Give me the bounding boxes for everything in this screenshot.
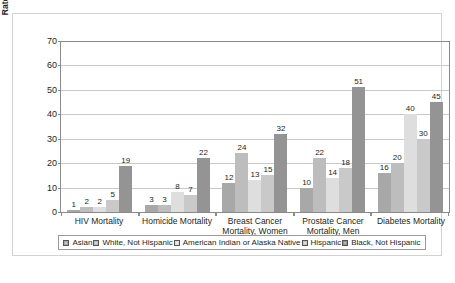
y-axis-tick-label: 0 <box>52 207 57 217</box>
bar-slot: 2 <box>93 41 106 212</box>
bar-value-label: 5 <box>111 190 115 199</box>
bar-value-label: 24 <box>238 143 247 152</box>
x-axis-category-line: Diabetes Mortality <box>372 217 450 227</box>
bar-slot: 20 <box>391 41 404 212</box>
legend-item[interactable]: American Indian or Alaska Native <box>174 238 301 247</box>
legend-label: American Indian or Alaska Native <box>183 238 301 247</box>
bar-value-label: 7 <box>188 185 192 194</box>
bar[interactable] <box>145 205 158 212</box>
bar[interactable] <box>158 205 171 212</box>
bar-slot: 18 <box>339 41 352 212</box>
bar[interactable] <box>235 153 248 212</box>
bar[interactable] <box>171 192 184 212</box>
bar[interactable] <box>430 102 443 212</box>
x-axis-tick-mark <box>139 212 140 216</box>
bar-slot: 40 <box>404 41 417 212</box>
bar-slot: 15 <box>261 41 274 212</box>
bar-slot: 3 <box>158 41 171 212</box>
x-axis-category-label: HIV Mortality <box>60 217 138 236</box>
y-axis-tick-label: 50 <box>47 85 57 95</box>
bar[interactable] <box>222 183 235 212</box>
bar-value-label: 22 <box>199 148 208 157</box>
bar-slot: 3 <box>145 41 158 212</box>
bar[interactable] <box>339 168 352 212</box>
bar[interactable] <box>80 207 93 212</box>
bar[interactable] <box>119 166 132 212</box>
y-axis-title: Rate Per 100,000 Population <box>0 0 10 32</box>
x-axis-category-label: Prostate CancerMortality, Men <box>294 217 372 236</box>
bar-slot: 10 <box>300 41 313 212</box>
bar-slot: 8 <box>171 41 184 212</box>
bar[interactable] <box>93 207 106 212</box>
x-axis-category-label: Homicide Mortality <box>138 217 216 236</box>
bar[interactable] <box>417 139 430 212</box>
bar-group: 338722 <box>139 41 217 212</box>
bar-value-label: 32 <box>277 124 286 133</box>
bar-group: 122519 <box>61 41 139 212</box>
legend-label: Asian <box>72 238 92 247</box>
legend-label: Hispanic <box>311 238 342 247</box>
x-axis-tick-mark <box>448 212 449 216</box>
bar-value-label: 40 <box>406 104 415 113</box>
x-axis-category-line: HIV Mortality <box>60 217 138 227</box>
x-axis-tick-mark <box>216 212 217 216</box>
bar[interactable] <box>352 87 365 212</box>
bar-value-label: 16 <box>380 163 389 172</box>
bar[interactable] <box>378 173 391 212</box>
bar[interactable] <box>261 175 274 212</box>
bar[interactable] <box>274 134 287 212</box>
chart-legend: AsianWhite, Not HispanicAmerican Indian … <box>58 235 426 250</box>
bar-slot: 14 <box>326 41 339 212</box>
bar-group: 1620403045 <box>371 41 449 212</box>
bar-slot: 7 <box>184 41 197 212</box>
bar[interactable] <box>106 200 119 212</box>
bar[interactable] <box>184 195 197 212</box>
legend-label: Black, Not Hispanic <box>351 238 420 247</box>
y-axis-tick-label: 30 <box>47 134 57 144</box>
bar[interactable] <box>391 163 404 212</box>
bar-value-label: 45 <box>432 92 441 101</box>
bar-slot: 5 <box>106 41 119 212</box>
chart-frame: Rate Per 100,000 Population 010203040506… <box>12 13 442 256</box>
bar-slot: 22 <box>197 41 210 212</box>
bar-value-label: 3 <box>162 195 166 204</box>
bar-value-label: 2 <box>85 197 89 206</box>
bar[interactable] <box>67 210 80 212</box>
bar[interactable] <box>326 178 339 212</box>
bar-value-label: 3 <box>149 195 153 204</box>
bar-value-label: 15 <box>264 165 273 174</box>
bar-value-label: 13 <box>251 170 260 179</box>
x-axis-tick-mark <box>294 212 295 216</box>
y-axis-tick-label: 70 <box>47 36 57 46</box>
bar-value-label: 18 <box>341 158 350 167</box>
y-axis-tick-label: 10 <box>47 183 57 193</box>
x-axis-labels: HIV MortalityHomicide MortalityBreast Ca… <box>60 217 450 236</box>
legend-item[interactable]: White, Not Hispanic <box>93 238 172 247</box>
legend-item[interactable]: Hispanic <box>302 238 342 247</box>
bar-slot: 22 <box>313 41 326 212</box>
legend-swatch <box>174 240 180 246</box>
bar-slot: 24 <box>235 41 248 212</box>
legend-item[interactable]: Black, Not Hispanic <box>342 238 420 247</box>
bar-value-label: 10 <box>302 178 311 187</box>
bar-groups: 1225193387221224131532102214185116204030… <box>61 41 449 212</box>
bar[interactable] <box>300 188 313 212</box>
bar[interactable] <box>248 180 261 212</box>
bar-value-label: 20 <box>393 153 402 162</box>
bar-slot: 30 <box>417 41 430 212</box>
bar-value-label: 30 <box>419 129 428 138</box>
x-axis-category-label: Breast CancerMortality, Women <box>216 217 294 236</box>
legend-item[interactable]: Asian <box>63 238 92 247</box>
x-axis-tick-mark <box>61 212 62 216</box>
legend-swatch <box>93 240 99 246</box>
bar[interactable] <box>197 158 210 212</box>
bar-value-label: 51 <box>354 77 363 86</box>
bar[interactable] <box>313 158 326 212</box>
bar-slot: 12 <box>222 41 235 212</box>
bar-slot: 32 <box>274 41 287 212</box>
bar[interactable] <box>404 114 417 212</box>
y-axis-tick-label: 40 <box>47 109 57 119</box>
bar-value-label: 2 <box>98 197 102 206</box>
bar-slot: 1 <box>67 41 80 212</box>
legend-swatch <box>342 240 348 246</box>
